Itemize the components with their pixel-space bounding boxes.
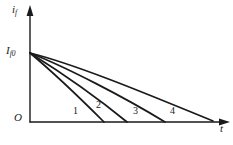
plot-area [0,0,233,145]
x-axis [30,119,230,126]
curve-label-4: 4 [170,106,175,116]
curve-2 [30,53,127,122]
initial-value-subscript: f0 [10,49,16,58]
curve-3 [30,53,165,122]
curve-label-3: 3 [133,106,138,116]
y-axis-label: if [12,4,17,17]
y-axis-arrowhead [27,5,34,16]
initial-value-label: If0 [6,45,15,58]
decay-curves [30,53,213,122]
y-axis-label-subscript: f [15,8,17,17]
x-axis-label: t [220,123,223,134]
curve-label-1: 1 [73,106,78,116]
y-axis [27,5,34,122]
curve-4 [30,53,213,121]
curve-label-2: 2 [96,100,101,110]
origin-label: O [14,112,22,123]
figure-container: if If0 t O 1 2 3 4 [0,0,233,145]
